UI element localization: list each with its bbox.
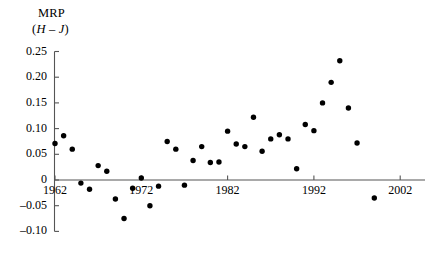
data-point [78,180,83,185]
data-point [242,144,247,149]
data-point [259,149,264,154]
data-point [346,105,351,110]
data-point [354,140,359,145]
data-point [164,139,169,144]
x-axis-tick-label: 1992 [291,183,337,198]
x-axis-tick-label: 2002 [377,183,423,198]
data-point [294,166,299,171]
data-point [328,80,333,85]
data-point [268,136,273,141]
data-point [234,141,239,146]
data-point [52,141,57,146]
data-point [337,58,342,63]
data-point [285,136,290,141]
data-point [216,159,221,164]
y-axis-tick-label: –0.05 [5,198,47,213]
data-point [311,128,316,133]
axes-group [55,52,426,232]
data-point [372,195,377,200]
data-point [87,187,92,192]
data-point [147,203,152,208]
y-axis-tick-label: 0.25 [5,44,47,59]
x-axis-tick-label: 1962 [32,183,78,198]
data-point [199,144,204,149]
data-point [320,100,325,105]
data-point [251,115,256,120]
data-point [104,169,109,174]
data-point [190,158,195,163]
plot-area [0,0,441,254]
data-point [70,146,75,151]
data-point [303,122,308,127]
data-point [139,175,144,180]
data-point [95,163,100,168]
data-point [277,132,282,137]
y-axis-tick-label: 0.20 [5,69,47,84]
data-point [208,160,213,165]
y-axis-tick-label: 0.15 [5,95,47,110]
x-axis-tick-label: 1982 [205,183,251,198]
data-point [225,128,230,133]
data-point [121,216,126,221]
y-axis-tick-label: 0.10 [5,121,47,136]
data-point [182,182,187,187]
data-point [173,146,178,151]
scatter-chart-figure: MRP (H – J) 0.250.200.150.100.050–0.05–0… [0,0,441,254]
x-axis-tick-label: 1972 [118,183,164,198]
y-axis-tick-label: –0.10 [5,223,47,238]
data-point [61,133,66,138]
y-axis-tick-label: 0.05 [5,146,47,161]
data-point [113,196,118,201]
